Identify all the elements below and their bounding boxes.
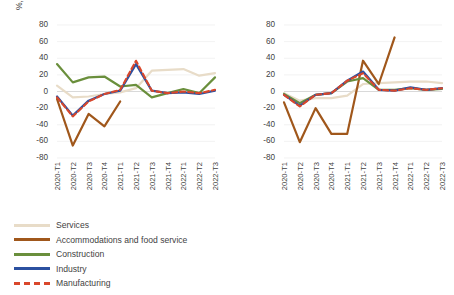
x-tick-label: 2020-T2	[69, 162, 78, 190]
x-tick-label: 2021-T2	[359, 162, 368, 190]
legend-label: Industry	[56, 264, 87, 274]
legend-item[interactable]: Accommodations and food service	[14, 233, 227, 248]
plot-area-right	[227, 0, 454, 175]
x-tick-label: 2022-T3	[211, 162, 220, 190]
x-tick-label: 2021-T1	[343, 162, 352, 190]
legend-item[interactable]: Services	[14, 218, 227, 233]
legend-swatch-accommodations	[14, 238, 50, 241]
chart-svg	[227, 0, 454, 175]
legend-swatch-manufacturing	[14, 282, 50, 285]
chart-svg	[0, 0, 227, 175]
legend-label: Accommodations and food service	[56, 235, 187, 245]
legend-label: Construction	[56, 249, 104, 259]
x-tick-label: 2020-T3	[85, 162, 94, 190]
x-tick-label: 2022-T1	[179, 162, 188, 190]
x-tick-label: 2020-T1	[280, 162, 289, 190]
legend-swatch-services	[14, 224, 50, 227]
series-line	[57, 99, 120, 146]
x-tick-label: 2020-T4	[100, 162, 109, 190]
chart-panel-right: %, year on year 806040200-20-40-60-80 20…	[227, 0, 454, 295]
plot-area-left	[0, 0, 227, 175]
legend-item[interactable]: Industry	[14, 262, 227, 277]
x-tick-label: 2020-T3	[312, 162, 321, 190]
x-tick-label: 2021-T4	[391, 162, 400, 190]
legend-item[interactable]: Construction	[14, 247, 227, 262]
figure-root: %, year on year 806040200-20-40-60-80 20…	[0, 0, 454, 295]
legend-label: Manufacturing	[56, 278, 110, 288]
x-tick-label: 2021-T4	[164, 162, 173, 190]
x-tick-label: 2022-T2	[195, 162, 204, 190]
legend-swatch-industry	[14, 267, 50, 270]
legend-item[interactable]: Manufacturing	[14, 276, 227, 291]
legend-label: Services	[56, 220, 89, 230]
x-tick-label: 2022-T2	[422, 162, 431, 190]
x-tick-label: 2020-T1	[53, 162, 62, 190]
legend-left: ServicesAccommodations and food serviceC…	[14, 218, 227, 291]
x-tick-label: 2021-T3	[375, 162, 384, 190]
x-tick-label: 2020-T4	[327, 162, 336, 190]
x-tick-label: 2021-T3	[148, 162, 157, 190]
chart-panel-left: %, year on year 806040200-20-40-60-80 20…	[0, 0, 227, 295]
x-tick-label: 2022-T3	[438, 162, 447, 190]
legend-swatch-construction	[14, 253, 50, 256]
x-tick-label: 2021-T1	[116, 162, 125, 190]
x-tick-label: 2022-T1	[406, 162, 415, 190]
plot-wrapper-right: %, year on year 806040200-20-40-60-80 20…	[227, 0, 454, 215]
plot-wrapper-left: %, year on year 806040200-20-40-60-80 20…	[0, 0, 227, 215]
x-tick-label: 2021-T2	[132, 162, 141, 190]
x-tick-label: 2020-T2	[296, 162, 305, 190]
